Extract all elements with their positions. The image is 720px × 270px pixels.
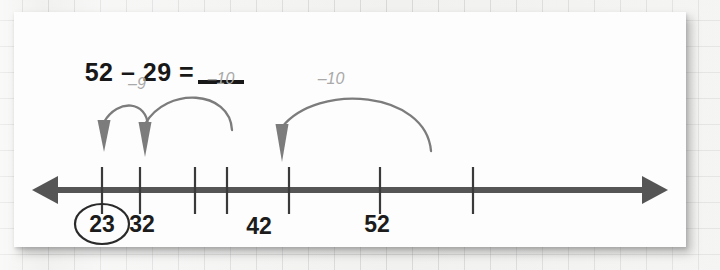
tick-label-52: 52 bbox=[364, 211, 390, 237]
number-line-left-arrowhead bbox=[32, 176, 58, 204]
jump-label-1: –9 bbox=[127, 75, 146, 92]
jump-arrowhead-3 bbox=[276, 124, 289, 162]
jump-arc-2 bbox=[145, 98, 232, 130]
number-line-right-arrowhead bbox=[642, 176, 668, 204]
number-line-diagram: –9 –10 –10 bbox=[14, 12, 686, 247]
tick-label-42: 42 bbox=[246, 213, 272, 239]
jump-arc-3 bbox=[282, 99, 431, 151]
tick-label-32: 32 bbox=[129, 211, 155, 237]
jump-label-2: –10 bbox=[207, 70, 235, 87]
jump-label-3: –10 bbox=[317, 70, 345, 87]
jump-arrowhead-1 bbox=[98, 120, 111, 152]
worksheet-page: 52 – 29 = –9 –10 –10 bbox=[0, 0, 720, 270]
tick-label-23: 23 bbox=[89, 211, 115, 237]
worksheet-card: 52 – 29 = –9 –10 –10 bbox=[14, 12, 686, 247]
jump-arrowhead-2 bbox=[139, 122, 152, 157]
